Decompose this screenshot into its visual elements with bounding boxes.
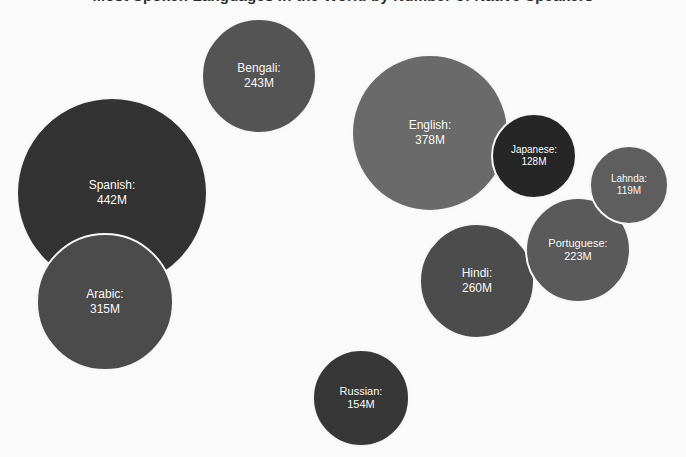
bubble-layer: Chinese:1.3BSpanish:442MEnglish:378MArab… — [0, 0, 686, 457]
bubble-label: Spanish: — [89, 178, 136, 193]
bubble-label: Japanese: — [511, 144, 557, 156]
bubble-chart-canvas: Most Spoken Languages in the World by Nu… — [0, 0, 686, 457]
bubble-japanese[interactable]: Japanese:128M — [491, 113, 577, 199]
bubble-value: 223M — [564, 250, 592, 263]
bubble-label: English: — [409, 118, 452, 133]
bubble-label: Portuguese: — [548, 237, 607, 250]
bubble-value: 315M — [90, 302, 120, 317]
bubble-value: 442M — [97, 193, 127, 208]
bubble-label: Lahnda: — [611, 173, 647, 185]
bubble-label: Arabic: — [86, 287, 123, 302]
bubble-label: Russian: — [340, 385, 383, 398]
bubble-value: 154M — [347, 398, 375, 411]
bubble-value: 119M — [617, 185, 641, 197]
bubble-label: Hindi: — [462, 266, 493, 281]
bubble-english[interactable]: English:378M — [351, 54, 509, 212]
bubble-lahnda[interactable]: Lahnda:119M — [589, 145, 669, 225]
bubble-value: 243M — [244, 76, 274, 91]
bubble-label: Bengali: — [237, 61, 280, 76]
bubble-value: 260M — [462, 281, 492, 296]
bubble-hindi[interactable]: Hindi:260M — [419, 223, 535, 339]
bubble-value: 1.3B — [280, 260, 307, 276]
bubble-bengali[interactable]: Bengali:243M — [201, 18, 317, 134]
bubble-value: 128M — [521, 156, 546, 168]
bubble-label: Chinese: — [267, 244, 318, 260]
bubble-russian[interactable]: Russian:154M — [312, 349, 410, 447]
bubble-value: 378M — [415, 133, 445, 148]
bubble-arabic[interactable]: Arabic:315M — [36, 233, 174, 371]
